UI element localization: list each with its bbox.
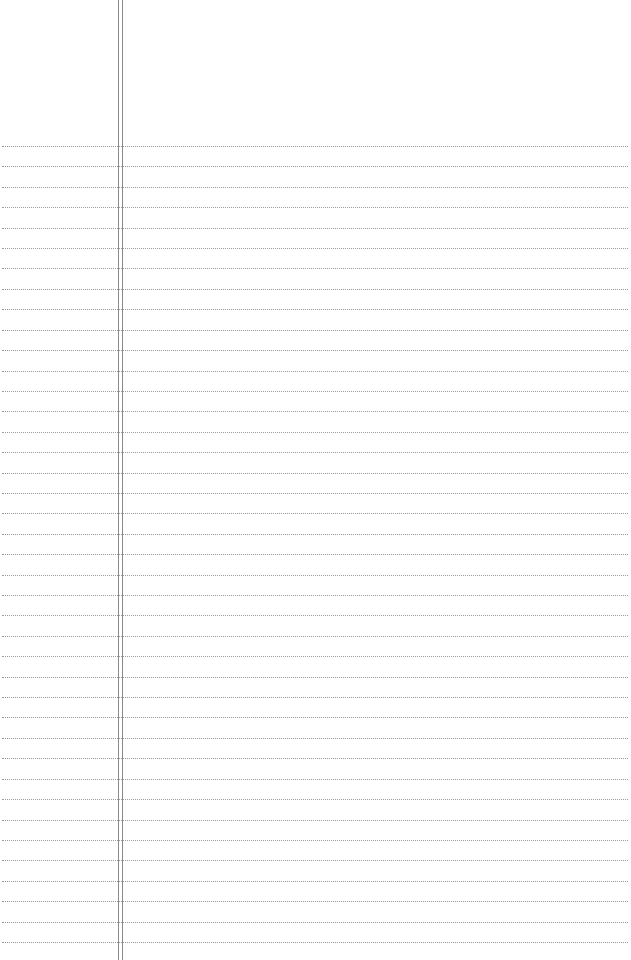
ruled-line xyxy=(2,615,628,616)
ruled-line xyxy=(2,758,628,759)
ruled-line xyxy=(2,411,628,412)
ruled-line xyxy=(2,901,628,902)
ruled-line xyxy=(2,432,628,433)
ruled-line xyxy=(2,493,628,494)
ruled-line xyxy=(2,146,628,147)
lined-paper-page xyxy=(0,0,631,960)
ruled-line xyxy=(2,187,628,188)
ruled-line xyxy=(2,922,628,923)
ruled-line xyxy=(2,371,628,372)
ruled-line xyxy=(2,534,628,535)
ruled-line xyxy=(2,820,628,821)
ruled-line xyxy=(2,636,628,637)
ruled-line xyxy=(2,309,628,310)
ruled-line xyxy=(2,799,628,800)
margin-line xyxy=(122,0,123,960)
ruled-line xyxy=(2,330,628,331)
ruled-line xyxy=(2,677,628,678)
ruled-line xyxy=(2,595,628,596)
ruled-line xyxy=(2,840,628,841)
ruled-line xyxy=(2,717,628,718)
ruled-line xyxy=(2,738,628,739)
ruled-line xyxy=(2,166,628,167)
ruled-line xyxy=(2,554,628,555)
ruled-line xyxy=(2,860,628,861)
ruled-line xyxy=(2,881,628,882)
ruled-line xyxy=(2,391,628,392)
margin-line xyxy=(118,0,119,960)
header-blank-area xyxy=(0,0,631,140)
ruled-line xyxy=(2,207,628,208)
ruled-line xyxy=(2,513,628,514)
ruled-line xyxy=(2,248,628,249)
ruled-line xyxy=(2,228,628,229)
ruled-line xyxy=(2,575,628,576)
ruled-line xyxy=(2,656,628,657)
ruled-line xyxy=(2,779,628,780)
ruled-line xyxy=(2,473,628,474)
ruled-line xyxy=(2,942,628,943)
ruled-line xyxy=(2,350,628,351)
ruled-line xyxy=(2,452,628,453)
ruled-line xyxy=(2,697,628,698)
ruled-line xyxy=(2,289,628,290)
ruled-line xyxy=(2,268,628,269)
